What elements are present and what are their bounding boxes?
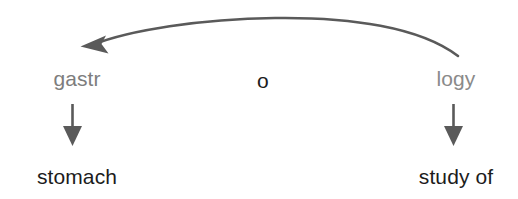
prefix-down-arrow <box>63 104 82 146</box>
prefix-down-arrowhead <box>63 126 82 146</box>
meaning-prefix: stomach <box>37 166 117 187</box>
suffix-down-arrowhead <box>444 126 463 146</box>
word-part-prefix: gastr <box>53 68 100 89</box>
word-part-combining-vowel: o <box>257 70 269 91</box>
arc-arrowhead <box>81 36 109 54</box>
word-parts-diagram: gastr o logy stomach study of <box>0 0 518 199</box>
word-part-suffix: logy <box>437 68 476 89</box>
suffix-to-prefix-arc <box>81 18 459 56</box>
suffix-down-arrow <box>444 104 463 146</box>
meaning-suffix: study of <box>419 166 493 187</box>
